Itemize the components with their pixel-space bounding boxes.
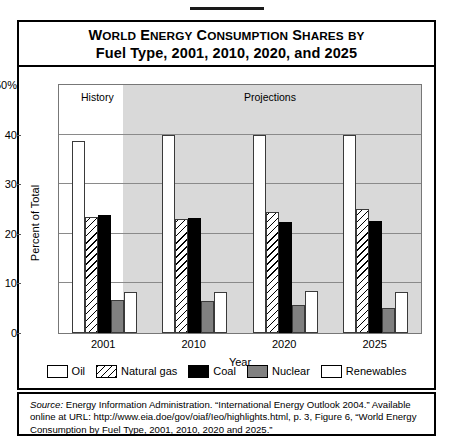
x-tick-2025: 2025 <box>345 338 405 350</box>
legend-label: Oil <box>72 365 85 377</box>
projections-band-label: Projections <box>244 91 296 103</box>
bar-group-2025 <box>331 85 422 333</box>
bar-coal-2025 <box>369 221 382 333</box>
x-tick-2020: 2020 <box>254 338 314 350</box>
figure-title-line-1: WORLD ENERGY CONSUMPTION SHARES BY <box>88 27 364 45</box>
bar-renewables-2025 <box>395 292 408 333</box>
y-tickmark-30 <box>17 184 21 185</box>
bar-oil-2010 <box>162 135 175 333</box>
bar-oil-2025 <box>343 135 356 333</box>
legend-label: Renewables <box>346 365 407 377</box>
y-axis-title: Percent of Total <box>29 123 41 323</box>
y-tick-50: 50% <box>0 80 17 91</box>
bar-group-2020 <box>240 85 331 333</box>
y-tick-20: 20 <box>0 229 17 240</box>
y-tick-30: 30 <box>0 179 17 190</box>
x-tick-2010: 2010 <box>164 338 224 350</box>
bar-coal-2001 <box>98 215 111 333</box>
square-black-icon <box>188 365 209 378</box>
title-text-2: Fuel Type, 2001, 2010, 2020, and 2025 <box>96 45 357 61</box>
history-band-label: History <box>81 91 114 103</box>
legend-item-renewables[interactable]: Renewables <box>321 365 407 378</box>
plot-area <box>58 84 422 334</box>
bar-natural-gas-2001 <box>85 217 98 333</box>
square-hatched-icon <box>96 365 117 378</box>
bar-nuclear-2001 <box>111 300 124 333</box>
chart-area: Percent of Total 01020304050% 2001201020… <box>19 67 434 390</box>
square-white-icon <box>47 365 68 378</box>
figure-title-line-2: Fuel Type, 2001, 2010, 2020, and 2025 <box>96 45 357 62</box>
bar-coal-2020 <box>279 222 292 333</box>
bar-natural-gas-2025 <box>356 209 369 333</box>
legend-item-nuclear[interactable]: Nuclear <box>247 365 310 378</box>
figure-title: WORLD ENERGY CONSUMPTION SHARES BY Fuel … <box>19 22 434 67</box>
y-tickmark-10 <box>17 283 21 284</box>
bar-natural-gas-2010 <box>175 219 188 333</box>
square-gray-icon <box>247 365 268 378</box>
y-tick-0: 0 <box>0 328 17 339</box>
bar-renewables-2020 <box>305 291 318 333</box>
legend-item-natural-gas[interactable]: Natural gas <box>96 365 177 378</box>
chart-legend: OilNatural gasCoalNuclearRenewables <box>19 360 434 382</box>
y-tick-40: 40 <box>0 130 17 141</box>
title-text-1: WORLD ENERGY CONSUMPTION SHARES BY <box>88 27 364 43</box>
bar-coal-2010 <box>188 218 201 333</box>
bar-natural-gas-2020 <box>266 212 279 333</box>
square-dotted-icon <box>321 365 342 378</box>
y-tickmark-0 <box>17 333 21 334</box>
legend-item-coal[interactable]: Coal <box>188 365 236 378</box>
figure-frame: WORLD ENERGY CONSUMPTION SHARES BY Fuel … <box>17 20 436 390</box>
source-label: Source: <box>30 399 63 410</box>
y-tickmark-20 <box>17 234 21 235</box>
x-tick-2001: 2001 <box>73 338 133 350</box>
bar-nuclear-2025 <box>382 308 395 333</box>
bar-renewables-2001 <box>124 292 137 333</box>
source-note-text: Source: Energy Information Administratio… <box>30 399 423 436</box>
legend-item-oil[interactable]: Oil <box>47 365 85 378</box>
source-note-box: Source: Energy Information Administratio… <box>17 392 436 436</box>
legend-label: Nuclear <box>272 365 310 377</box>
bar-oil-2001 <box>72 141 85 333</box>
bar-group-2001 <box>59 85 150 333</box>
legend-label: Coal <box>213 365 236 377</box>
bar-nuclear-2020 <box>292 305 305 333</box>
bar-nuclear-2010 <box>201 301 214 333</box>
source-body: Energy Information Administration. “Inte… <box>30 399 416 435</box>
bar-oil-2020 <box>253 135 266 333</box>
legend-label: Natural gas <box>121 365 177 377</box>
decorative-top-rule <box>190 7 264 10</box>
y-tick-10: 10 <box>0 278 17 289</box>
bar-renewables-2010 <box>214 292 227 333</box>
y-tickmark-40 <box>17 135 21 136</box>
bar-group-2010 <box>150 85 241 333</box>
